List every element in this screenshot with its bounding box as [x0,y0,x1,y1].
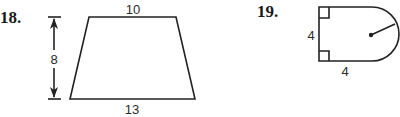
trapezoid-shape [70,17,195,99]
square-semicircle-shape [319,7,399,61]
problem-18: 18. 8 10 13 [0,2,195,117]
problems-figure: 18. 8 10 13 19. 4 4 [0,0,400,117]
problem-number: 18. [0,8,21,27]
height-dimension: 8 [48,17,61,99]
problem-19: 19. 4 4 [257,2,399,79]
top-base-label: 10 [126,2,140,17]
height-label: 8 [50,52,57,67]
side-label-left: 4 [307,28,314,43]
right-angle-mark-bottom [319,51,329,61]
problem-number: 19. [257,2,278,21]
right-angle-mark-top [319,7,329,18]
side-label-bottom: 4 [341,64,348,79]
radius-line [371,24,395,35]
bottom-base-label: 13 [125,102,139,117]
